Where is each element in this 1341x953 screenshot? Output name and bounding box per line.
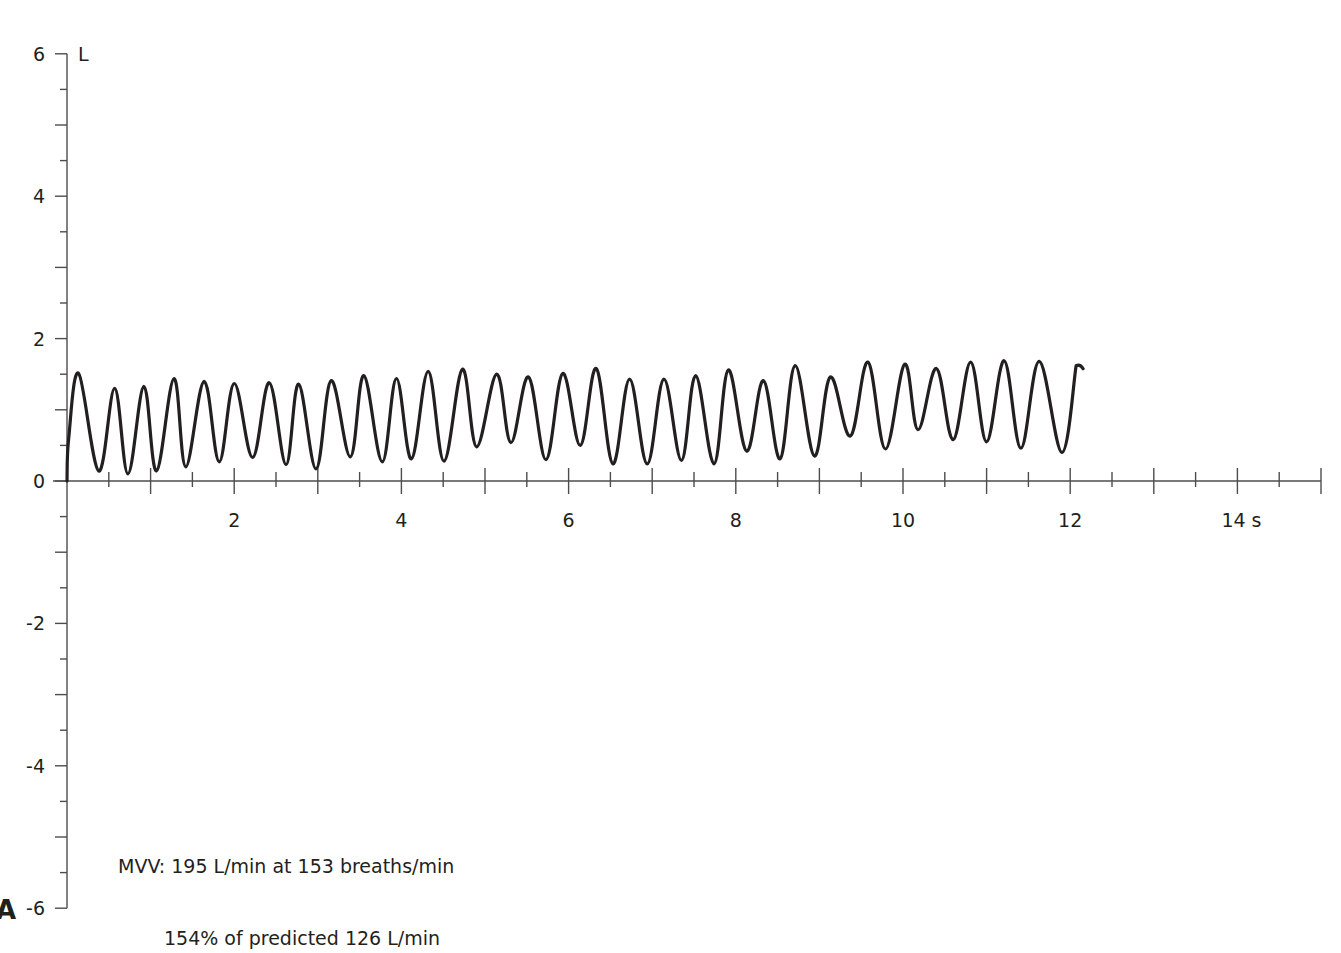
y-tick-label: -6 [26, 897, 45, 919]
y-tick-label: -4 [26, 755, 45, 777]
x-tick-label: 14 s [1221, 509, 1261, 531]
volume-trace [67, 361, 1083, 481]
panel-label: A [0, 895, 16, 925]
y-tick-label: 2 [33, 328, 45, 350]
axes [53, 54, 1321, 908]
x-tick-label: 12 [1058, 509, 1082, 531]
x-tick-label: 6 [563, 509, 575, 531]
mvv-predicted-line: 154% of predicted 126 L/min [118, 926, 454, 950]
mvv-annotation: MVV: 195 L/min at 153 breaths/min 154% o… [118, 806, 454, 953]
x-tick-label: 10 [891, 509, 915, 531]
y-tick-label: -2 [26, 612, 45, 634]
y-tick-label: 4 [33, 185, 45, 207]
x-tick-label: 8 [730, 509, 742, 531]
y-axis-unit-label: L [78, 43, 89, 65]
y-tick-label: 6 [33, 43, 45, 65]
x-tick-label: 4 [395, 509, 407, 531]
mvv-result-line: MVV: 195 L/min at 153 breaths/min [118, 854, 454, 878]
x-tick-label: 2 [228, 509, 240, 531]
y-tick-label: 0 [33, 470, 45, 492]
